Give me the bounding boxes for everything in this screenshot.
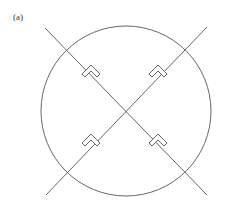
- diagram-canvas: [0, 0, 226, 205]
- bracket-marker-3: [82, 134, 100, 146]
- bracket-markers: [82, 65, 167, 146]
- bracket-marker-2: [149, 65, 167, 77]
